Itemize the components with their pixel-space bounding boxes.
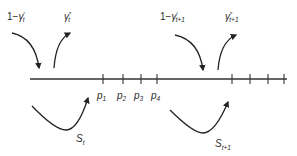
outflow-arrow-t (54, 33, 70, 68)
inflow-arrow-t (12, 33, 39, 68)
search-curve-t (32, 98, 88, 130)
search-label-t: St (76, 133, 86, 146)
diagram-canvas: p1 p2 p3 p4 1−γ′t γ″t 1−γ′t+1 γ″t+1 St S… (0, 0, 297, 156)
outflow-label-t1: γ″t+1 (225, 11, 239, 23)
inflow-label-t1: 1−γ′t+1 (160, 11, 185, 23)
inflow-label-t: 1−γ′t (7, 11, 26, 23)
tick-label-p2: p2 (116, 90, 127, 102)
tick-label-p4: p4 (150, 90, 161, 102)
tick-label-p3: p3 (133, 90, 144, 102)
outflow-label-t: γ″t (64, 11, 72, 23)
search-curve-t1 (170, 102, 228, 133)
tick-label-p1: p1 (96, 90, 107, 102)
outflow-arrow-t1 (218, 35, 236, 70)
search-label-t1: St+1 (215, 138, 231, 151)
inflow-arrow-t1 (175, 35, 203, 70)
